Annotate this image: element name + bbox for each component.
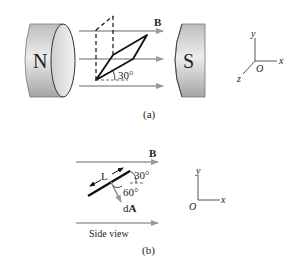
length-arrow-left (90, 180, 101, 186)
angle-arc-60 (113, 186, 122, 187)
figure-b: B L 30° 60° dA Side view (b) y x O (76, 147, 226, 257)
field-label-b: B (154, 16, 162, 28)
axis-y-label-b: y (195, 165, 201, 176)
area-vector-arrow (111, 182, 121, 202)
caption-b: (b) (142, 244, 155, 257)
axis-y-label-a: y (250, 28, 256, 39)
north-magnet: N (25, 24, 75, 97)
length-arrow-right (112, 168, 123, 174)
figure-a: N S B 30° (a) (25, 16, 284, 121)
angle-label-30-b: 30° (134, 169, 149, 181)
axes-2d (198, 175, 220, 200)
caption-a: (a) (143, 108, 156, 121)
dashed-projection (96, 16, 113, 80)
axis-origin-label-b: O (189, 201, 196, 212)
area-vector-label: dA (123, 202, 137, 214)
length-label: L (101, 170, 108, 182)
south-magnet: S (175, 24, 205, 97)
angle-arc (113, 71, 115, 80)
north-pole-label: N (33, 50, 47, 72)
field-label-b-side: B (149, 147, 157, 159)
side-view-label: Side view (89, 228, 129, 239)
magnetic-flux-diagram: N S B 30° (a) (0, 0, 297, 263)
axis-x-label-a: x (278, 55, 284, 66)
axis-z-label-a: z (236, 73, 241, 84)
axis-origin-label-a: O (256, 63, 263, 74)
axis-x-label-b: x (220, 194, 226, 205)
angle-label-60: 60° (123, 186, 138, 198)
angle-label-30: 30° (118, 69, 133, 81)
south-pole-label: S (183, 50, 194, 72)
